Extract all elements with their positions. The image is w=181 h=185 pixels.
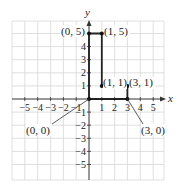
x-tick-label: 2	[112, 102, 117, 113]
y-tick-label: 4	[81, 41, 86, 52]
label-3-1: (3, 1)	[129, 76, 153, 89]
label-3-0: (3, 0)	[141, 124, 165, 137]
l-shape-polygon	[89, 34, 127, 100]
x-tick-label: −4	[32, 102, 43, 113]
x-tick-label: −5	[19, 102, 30, 113]
x-tick-label: −2	[58, 102, 69, 113]
x-axis-arrow-icon	[160, 97, 166, 102]
label-1-5: (1, 5)	[104, 25, 128, 38]
y-tick-label: −2	[75, 120, 86, 131]
y-tick-label: −4	[75, 146, 86, 157]
label-0-0: (0, 0)	[26, 124, 50, 137]
vertices	[87, 32, 129, 102]
y-tick-label: 1	[81, 80, 86, 91]
x-tick-label: −3	[45, 102, 56, 113]
y-tick-label: −5	[75, 159, 86, 170]
y-axis-label: y	[84, 6, 90, 18]
y-tick-label: −3	[75, 133, 86, 144]
x-tick-label: 5	[151, 102, 156, 113]
x-tick-label: 1	[99, 102, 104, 113]
vertex-0-5	[87, 32, 91, 36]
point-labels: (0, 5) (1, 5) (1, 1) (3, 1) (0, 0) (3, 0…	[26, 25, 167, 137]
x-tick-label: 3	[125, 102, 130, 113]
y-tick-label: 2	[81, 67, 86, 78]
y-tick-label: 3	[81, 54, 86, 65]
label-0-5: (0, 5)	[61, 25, 85, 38]
y-tick-label: −1	[75, 107, 86, 118]
vertex-3-0	[125, 97, 129, 101]
coordinate-plane: −5 −4 −3 −2 −1 1 2 3 4 5 4 3 2 1 −1 −2 −…	[0, 0, 181, 185]
label-1-1: (1, 1)	[103, 76, 127, 89]
x-axis-label: x	[167, 92, 173, 104]
x-tick-label: 4	[138, 102, 143, 113]
